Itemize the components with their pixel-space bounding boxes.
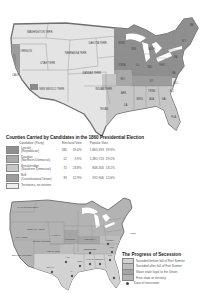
label-pennsylvania: PA. <box>174 55 178 59</box>
secession-date-marker <box>79 265 81 267</box>
electoral-pct: 59.4% <box>69 146 84 155</box>
label-indian: INDIAN TERR. <box>47 250 61 252</box>
label-oregon: OREGON <box>20 49 32 53</box>
label-maine: ME. <box>190 23 195 27</box>
electoral-votes: 39 <box>59 173 69 182</box>
electoral-votes: 72 <box>59 164 69 173</box>
label-kansas: KANSAS <box>52 234 61 236</box>
legend-label: Free state or territory <box>136 276 166 280</box>
label-washington-dc: Washington, D.C. <box>130 232 136 235</box>
election-1860-map: WASHINGTON TERR. OREGON CALIF. UTAH TERR… <box>6 14 206 138</box>
label-texas: TEXAS <box>100 107 109 111</box>
label-utah: UTAH TERR. <box>40 61 56 65</box>
label-south-carolina: S.C. <box>108 254 112 256</box>
label-arkansas: ARK. <box>66 256 71 258</box>
electoral-votes: 12 <box>59 155 69 164</box>
secession-legend: The Progress of Secession Seceded before… <box>122 252 206 286</box>
electoral-pct: 23.8% <box>69 164 84 173</box>
label-alabama: ALA. <box>149 97 155 101</box>
label-california: CALIF. <box>12 73 20 77</box>
label-kentucky: KY. <box>150 79 154 83</box>
label-virginia: VIRGINIA <box>105 239 115 241</box>
legend-label: Seceded after fall of Fort Sumter <box>136 264 182 268</box>
swatch-douglas <box>6 155 19 163</box>
label-colorado: COLORADO TERR. <box>33 240 52 242</box>
popular-pct: 18.1% <box>106 164 117 173</box>
label-north-carolina: N.C. <box>173 81 178 85</box>
header-electoral: Electoral Vote <box>59 141 84 146</box>
legend-label: Slave state loyal to the Union <box>136 270 177 274</box>
label-new-mexico: NEW MEXICO TERR. <box>39 87 65 91</box>
table-row-douglas: Douglas(Northern Democrat) 12 3.9% 1,382… <box>6 155 117 164</box>
legend-label: Date of secession <box>134 281 159 285</box>
legend-title: The Progress of Secession <box>122 252 206 257</box>
electoral-pct: 12.9% <box>69 173 84 182</box>
secession-date-marker <box>107 243 109 245</box>
swatch-lincoln <box>6 146 19 154</box>
table-row-lincoln: Lincoln(Republican) 180 59.4% 1,865,593 … <box>6 146 117 155</box>
label-michigan: MICH. <box>148 47 156 51</box>
label-arkansas: ARK. <box>121 91 127 95</box>
swatch-free-state <box>122 274 134 281</box>
label-alabama: ALABAMA <box>85 258 95 260</box>
secession-date-marker <box>89 252 91 254</box>
label-indian: INDIAN TERR. <box>95 87 113 91</box>
label-new-york: N.Y. <box>182 39 187 43</box>
label-iowa: IOWA <box>119 63 126 67</box>
candidate-party: (Republican) <box>21 149 39 153</box>
label-louisiana: LA. <box>70 270 74 272</box>
table-row-territories: Territories, no returns <box>6 182 117 190</box>
legend-label: Seceded before fall of Fort Sumter <box>136 259 185 263</box>
label-kansas: KANSAS TERR. <box>83 71 102 75</box>
popular-votes: 848,356 <box>84 164 106 173</box>
popular-pct: 12.6% <box>106 173 117 182</box>
label-florida: FLA. <box>171 115 177 119</box>
secession-date-marker <box>113 277 115 279</box>
label-nebraska: NEBRASKA TERR. <box>27 228 45 230</box>
label-wisconsin: WIS. <box>131 47 137 51</box>
table-row-breckinridge: Breckinridge(Southern Democrat) 72 23.8%… <box>6 164 117 173</box>
table-row-bell: Bell(Constitutional Union) 39 12.9% 592,… <box>6 173 117 182</box>
table-title: Counties Carried by Candidates in the 18… <box>6 135 144 140</box>
label-mississippi: MISS. <box>77 260 83 262</box>
swatch-bell <box>6 174 19 182</box>
secession-date-marker <box>71 275 73 277</box>
label-missouri: MO. <box>121 77 126 81</box>
popular-votes: 1,382,713 <box>84 155 106 164</box>
secession-date-marker <box>51 271 53 273</box>
label-utah: UTAH TERR. <box>16 236 29 238</box>
territories-label: Territories, no returns <box>21 184 51 187</box>
secession-map: WASHINGTON TERR. NEBRASKA TERR. UTAH TER… <box>8 196 136 292</box>
label-tennessee: TENN. <box>148 89 156 93</box>
label-ohio: OHIO <box>159 63 166 67</box>
candidate-party: (Southern Democrat) <box>21 167 51 171</box>
label-north-carolina: N.C. <box>110 246 115 248</box>
popular-votes: 592,906 <box>84 173 106 182</box>
label-texas: TEXAS <box>47 266 54 268</box>
secession-date-marker <box>109 259 111 261</box>
label-louisiana: LA. <box>124 103 128 107</box>
swatch-territories <box>6 183 19 190</box>
secession-date-marker <box>99 263 101 265</box>
candidates-table: Candidate (Party) Electoral Vote Popular… <box>6 141 117 190</box>
label-washington: WASHINGTON TERR. <box>18 206 39 208</box>
secession-date-marker <box>89 263 91 265</box>
legend-item-date: Date of secession <box>122 280 206 286</box>
label-mississippi: MISS. <box>136 97 143 101</box>
popular-pct: 29.5% <box>106 155 117 164</box>
label-illinois: ILL. <box>136 63 141 67</box>
label-virginia: VA. <box>172 71 176 75</box>
label-georgia: GEORGIA <box>95 258 105 260</box>
label-tennessee: TENNESSEE <box>84 248 97 250</box>
secession-date-marker <box>111 251 113 253</box>
label-dakota: DAKOTA TERR. <box>89 41 108 45</box>
label-washington: WASHINGTON TERR. <box>27 30 53 34</box>
label-missouri: MISSOURI <box>65 238 76 240</box>
candidate-party: (Northern Democrat) <box>21 158 50 162</box>
secession-date-marker <box>65 261 67 263</box>
label-kentucky: KENTUCKY <box>84 238 96 240</box>
candidate-party: (Constitutional Union) <box>21 177 52 181</box>
label-indiana: IND. <box>147 65 152 69</box>
electoral-pct: 3.9% <box>69 155 84 164</box>
popular-votes: 1,865,593 <box>84 146 106 155</box>
